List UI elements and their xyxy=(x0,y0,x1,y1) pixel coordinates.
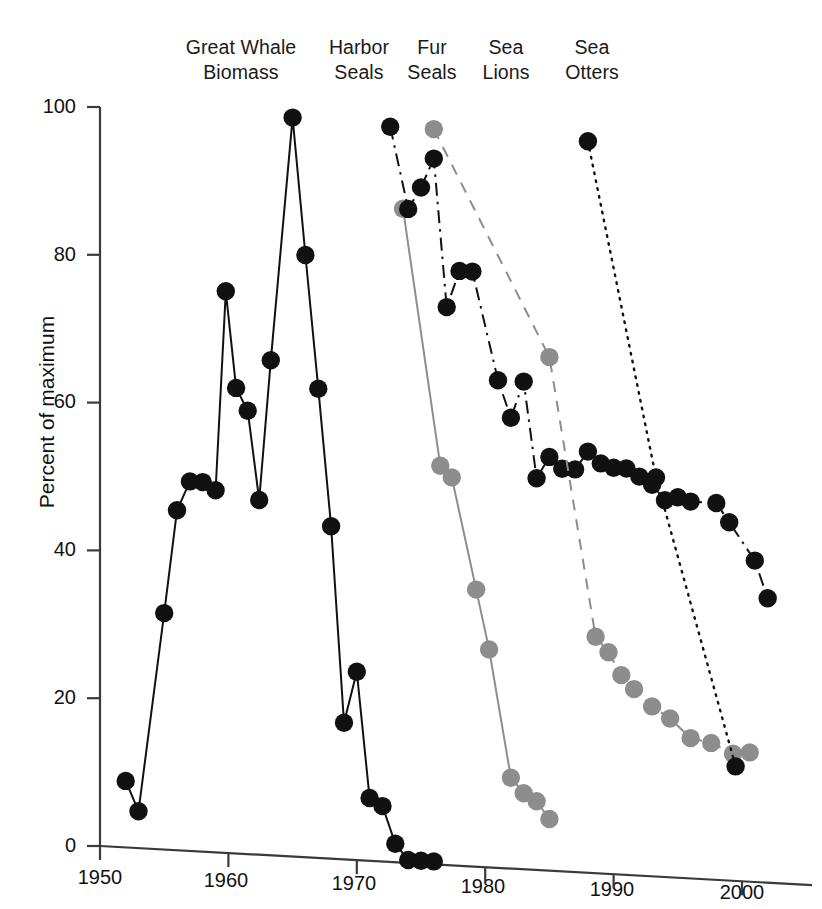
data-point xyxy=(746,551,764,569)
series-great-whale-biomass xyxy=(117,108,443,870)
data-point xyxy=(480,640,498,658)
data-point xyxy=(217,282,235,300)
data-point xyxy=(707,494,725,512)
data-point xyxy=(335,714,353,732)
series-line xyxy=(126,118,434,862)
data-point xyxy=(399,200,417,218)
data-point xyxy=(540,810,558,828)
data-point xyxy=(612,666,630,684)
data-point xyxy=(438,298,456,316)
series-line xyxy=(434,129,750,754)
data-point xyxy=(720,513,738,531)
data-point xyxy=(661,709,679,727)
series-layer xyxy=(117,108,777,870)
data-point xyxy=(227,379,245,397)
data-point xyxy=(647,468,665,486)
data-point xyxy=(412,178,430,196)
chart-figure: Great Whale Biomass Harbor Seals Fur Sea… xyxy=(0,0,822,909)
series-line xyxy=(588,141,736,766)
data-point xyxy=(681,729,699,747)
data-point xyxy=(239,402,257,420)
data-point xyxy=(502,769,520,787)
data-point xyxy=(386,835,404,853)
data-point xyxy=(515,372,533,390)
series-sea-lions xyxy=(425,120,759,763)
data-point xyxy=(586,628,604,646)
data-point xyxy=(322,517,340,535)
data-point xyxy=(625,680,643,698)
data-point xyxy=(381,118,399,136)
series-line xyxy=(390,127,768,599)
data-point xyxy=(681,492,699,510)
data-point xyxy=(206,481,224,499)
data-point xyxy=(425,149,443,167)
data-point xyxy=(309,380,327,398)
data-point xyxy=(463,262,481,280)
data-point xyxy=(540,348,558,366)
data-point xyxy=(283,108,301,126)
data-point xyxy=(129,802,147,820)
data-point xyxy=(702,734,720,752)
data-point xyxy=(373,797,391,815)
data-point xyxy=(643,697,661,715)
series-harbor-seals xyxy=(394,200,559,829)
data-point xyxy=(502,409,520,427)
series-line xyxy=(403,209,549,819)
series-fur-seals xyxy=(381,118,777,608)
data-point xyxy=(599,643,617,661)
series-sea-otters xyxy=(579,132,745,776)
data-point xyxy=(741,743,759,761)
data-point xyxy=(348,663,366,681)
data-point xyxy=(579,132,597,150)
axes xyxy=(87,107,812,895)
data-point xyxy=(527,469,545,487)
data-point xyxy=(296,246,314,264)
data-point xyxy=(262,351,280,369)
data-point xyxy=(527,792,545,810)
data-point xyxy=(726,757,744,775)
data-point xyxy=(425,852,443,870)
data-point xyxy=(443,468,461,486)
data-point xyxy=(168,501,186,519)
data-point xyxy=(467,580,485,598)
data-point xyxy=(117,772,135,790)
data-point xyxy=(489,371,507,389)
plot-area xyxy=(0,0,822,909)
data-point xyxy=(155,604,173,622)
data-point xyxy=(425,120,443,138)
data-point xyxy=(250,491,268,509)
data-point xyxy=(759,589,777,607)
